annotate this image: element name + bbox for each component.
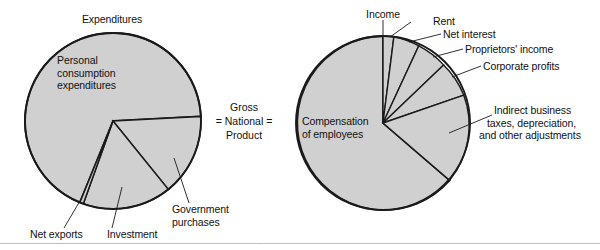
left-chart-title: Expenditures (42, 13, 182, 26)
callout-label-indirect-business-taxes-line2: taxes, depreciation, (487, 117, 576, 130)
right-chart-title: Income (343, 8, 423, 21)
leader-line-rent (390, 22, 411, 37)
callout-label-indirect-business-taxes: Indirect business (494, 104, 571, 117)
leader-line-net-exports (64, 200, 81, 228)
left-inside-label-line1: Personal (57, 54, 98, 67)
center-equation: Gross = National = Product (206, 100, 282, 142)
callout-label-net-interest: Net interest (443, 28, 496, 41)
center-equation-line1: Gross (206, 100, 282, 114)
center-equation-line2: = National = (206, 114, 282, 128)
callout-label-corporate-profits: Corporate profits (483, 60, 560, 73)
callout-label-investment: Investment (107, 228, 157, 241)
left-inside-label-line3: expenditures (57, 79, 116, 92)
right-inside-label-line1: Compensation (302, 115, 369, 128)
callout-label-net-exports: Net exports (30, 228, 83, 241)
callout-label-rent: Rent (433, 15, 455, 28)
callout-label-proprietors-income: Proprietors' income (465, 43, 553, 56)
callout-label-indirect-business-taxes-line3: and other adjustments (479, 129, 581, 142)
callout-label-government-purchases: Government (172, 203, 229, 216)
leader-line-corporate-profits (452, 66, 481, 77)
leader-line-net-interest (409, 34, 441, 42)
center-equation-line3: Product (206, 128, 282, 142)
left-pie-group (25, 33, 201, 228)
callout-label-government-purchases-line2: purchases (172, 216, 220, 229)
leader-line-proprietors-income (433, 49, 463, 57)
right-inside-label-line2: of employees (302, 128, 363, 141)
left-inside-label-line2: consumption (57, 67, 115, 80)
